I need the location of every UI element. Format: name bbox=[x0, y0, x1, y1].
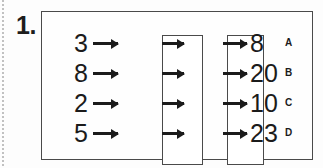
arrow-head bbox=[240, 99, 248, 109]
output-value: 20 bbox=[250, 58, 284, 88]
arrow-right-icon bbox=[162, 42, 184, 45]
option-letter-d[interactable]: D bbox=[285, 126, 299, 140]
diagram-row: 2 10 C bbox=[0, 88, 323, 118]
input-value: 5 bbox=[60, 118, 88, 148]
arrow-head bbox=[111, 99, 119, 109]
arrow-right-icon bbox=[93, 102, 118, 105]
arrow-head bbox=[111, 129, 119, 139]
arrow-head bbox=[240, 39, 248, 49]
arrow-head bbox=[177, 99, 185, 109]
arrow-head bbox=[240, 69, 248, 79]
diagram-row: 5 23 D bbox=[0, 118, 323, 148]
arrow-head bbox=[177, 129, 185, 139]
output-value: 23 bbox=[250, 118, 284, 148]
arrow-right-icon bbox=[223, 72, 247, 75]
arrow-right-icon bbox=[223, 102, 247, 105]
diagram-row: 8 20 B bbox=[0, 58, 323, 88]
input-value: 2 bbox=[60, 88, 88, 118]
output-value: 10 bbox=[250, 88, 284, 118]
arrow-right-icon bbox=[223, 42, 247, 45]
arrow-right-icon bbox=[162, 102, 184, 105]
output-value: 8 bbox=[250, 28, 284, 58]
option-letter-a[interactable]: A bbox=[285, 36, 299, 50]
option-letter-b[interactable]: B bbox=[285, 66, 299, 80]
input-value: 3 bbox=[60, 28, 88, 58]
arrow-head bbox=[111, 39, 119, 49]
arrow-right-icon bbox=[162, 132, 184, 135]
arrow-head bbox=[111, 69, 119, 79]
arrow-right-icon bbox=[93, 132, 118, 135]
arrow-right-icon bbox=[93, 42, 118, 45]
diagram-row: 3 8 A bbox=[0, 28, 323, 58]
diagram-canvas: 1. 3 8 A 8 bbox=[0, 0, 323, 168]
arrow-right-icon bbox=[162, 72, 184, 75]
arrow-head bbox=[177, 69, 185, 79]
arrow-head bbox=[177, 39, 185, 49]
input-value: 8 bbox=[60, 58, 88, 88]
arrow-right-icon bbox=[223, 132, 247, 135]
option-letter-c[interactable]: C bbox=[285, 96, 299, 110]
arrow-right-icon bbox=[93, 72, 118, 75]
arrow-head bbox=[240, 129, 248, 139]
